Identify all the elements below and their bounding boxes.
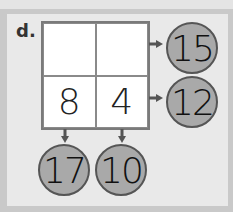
row-sum-1: 15: [166, 22, 218, 74]
grid-cell-r1c1[interactable]: [43, 23, 96, 76]
problem-label: d.: [16, 20, 36, 41]
top-strip: [0, 0, 233, 9]
arrow-right-icon: [149, 40, 163, 48]
arrow-down-icon: [118, 129, 126, 143]
number-grid: 8 4: [41, 21, 150, 130]
arrow-down-icon: [61, 129, 69, 143]
arrow-right-icon: [149, 94, 163, 102]
column-sum-1: 17: [38, 144, 90, 196]
row-sum-2: 12: [166, 76, 218, 128]
column-sum-2: 10: [95, 144, 147, 196]
grid-cell-r2c1: 8: [43, 76, 96, 129]
grid-cell-r1c2[interactable]: [96, 23, 149, 76]
grid-cell-r2c2: 4: [96, 76, 149, 129]
